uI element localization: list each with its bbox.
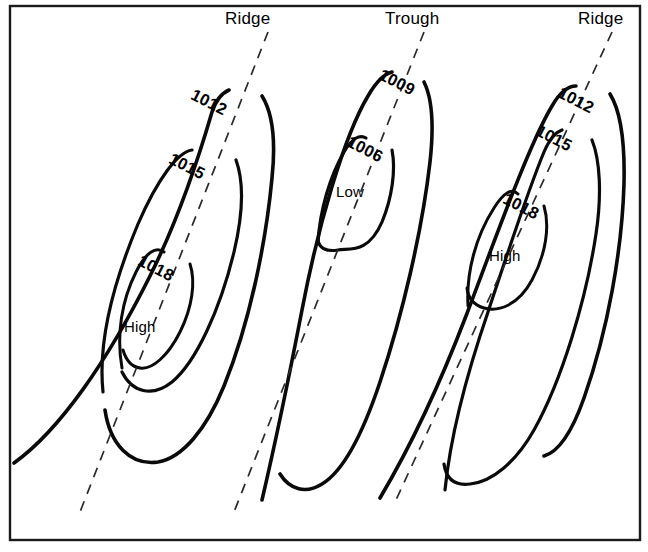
center-label-high-right: High [489, 248, 521, 263]
axis-label-ridge-right: Ridge [578, 10, 623, 27]
isobar-1015-left-east [122, 160, 241, 391]
diagram-canvas: Ridge Trough Ridge High Low High 1012 10… [0, 0, 648, 552]
map-frame [10, 6, 640, 540]
axis-label-trough-center: Trough [385, 10, 439, 27]
axis-label-ridge-left: Ridge [225, 10, 270, 27]
isobar-map-svg [0, 0, 648, 552]
center-label-low-center: Low [336, 184, 364, 199]
center-label-high-left: High [124, 319, 156, 334]
trough-axis-center [234, 32, 424, 512]
isobar-1015-right-west [445, 130, 562, 490]
isobar-1009-center-west [262, 72, 392, 500]
